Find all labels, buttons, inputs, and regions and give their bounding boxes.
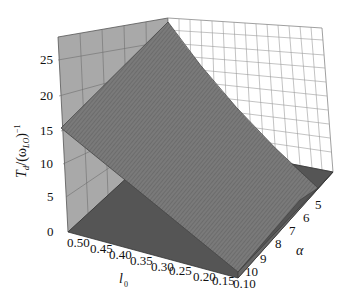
svg-text:10: 10 <box>245 264 258 279</box>
svg-text:0: 0 <box>47 224 54 239</box>
svg-text:25: 25 <box>40 52 53 67</box>
svg-text:6: 6 <box>303 210 310 225</box>
z-axis-label: Td/(ωLO)−1 <box>13 125 31 179</box>
svg-text:15: 15 <box>40 123 53 138</box>
x-axis-label: l 0 <box>119 271 128 289</box>
svg-text:7: 7 <box>289 223 296 238</box>
svg-text:0: 0 <box>124 280 128 289</box>
z-axis: 25 20 15 10 5 0 <box>40 52 54 239</box>
surface-plot: 25 20 15 10 5 0 0.50 0.45 0.40 0.35 0.30… <box>0 0 340 307</box>
svg-text:0.25: 0.25 <box>169 263 192 278</box>
svg-text:10: 10 <box>40 156 53 171</box>
svg-text:9: 9 <box>260 251 267 266</box>
svg-text:8: 8 <box>275 236 282 251</box>
svg-text:0.35: 0.35 <box>130 253 153 268</box>
svg-text:l: l <box>119 271 123 286</box>
svg-text:20: 20 <box>40 88 53 103</box>
svg-text:5: 5 <box>47 189 54 204</box>
svg-text:0.40: 0.40 <box>109 247 132 262</box>
svg-text:0.15: 0.15 <box>212 273 235 288</box>
svg-text:0.50: 0.50 <box>67 235 90 250</box>
svg-text:5: 5 <box>315 197 322 212</box>
y-axis-label: α <box>296 243 304 258</box>
svg-text:Td/(ωLO)−1: Td/(ωLO)−1 <box>13 125 31 179</box>
